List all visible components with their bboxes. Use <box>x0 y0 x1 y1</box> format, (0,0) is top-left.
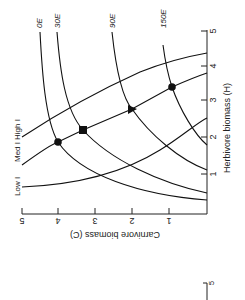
c-tick-5: 5 <box>19 216 24 226</box>
c-tick-3: 3 <box>92 216 97 226</box>
c-tick-4: 4 <box>55 216 60 226</box>
rotated-isocline-chart: 1 2 3 4 5 Herbivore biomass (H) 5 4 3 2 … <box>0 0 245 300</box>
label-0e: 0E <box>35 18 44 28</box>
h-axis-ticks <box>201 31 207 174</box>
c-axis-ticks <box>58 208 169 214</box>
marker-circle-2 <box>168 83 176 91</box>
c-tick-2: 2 <box>129 216 134 226</box>
fragment-tick-5: 5 <box>207 280 216 285</box>
isocline-90e <box>112 32 207 170</box>
isocline-0e <box>40 32 207 200</box>
h-tick-3: 3 <box>208 97 218 102</box>
isocline-30e <box>57 32 207 193</box>
h-tick-2: 2 <box>208 134 218 139</box>
isocline-low-i <box>22 118 207 187</box>
marker-triangle <box>128 105 137 114</box>
c-tick-1: 1 <box>166 216 171 226</box>
label-30e: 30E <box>53 13 62 28</box>
label-high-i: High I <box>13 119 22 140</box>
h-axis-tick-labels: 1 2 3 4 5 <box>208 28 218 176</box>
h-tick-5: 5 <box>208 28 218 33</box>
c-axis-tick-labels: 5 4 3 2 1 <box>19 216 171 226</box>
label-150e: 150E <box>159 9 168 28</box>
h-tick-1: 1 <box>208 171 218 176</box>
marker-circle-1 <box>54 138 62 146</box>
c-axis-title: Carnivore biomass (C) <box>70 230 160 240</box>
isocline-high-i <box>22 53 207 137</box>
h-tick-4: 4 <box>208 63 218 68</box>
isocline-150e <box>163 45 207 145</box>
h-axis-title: Herbivore biomass (H) <box>222 83 232 173</box>
label-90e: 90E <box>108 13 117 28</box>
label-low-i: Low I <box>13 177 22 196</box>
marker-square <box>79 126 87 134</box>
label-med-i: Med I <box>13 142 22 162</box>
